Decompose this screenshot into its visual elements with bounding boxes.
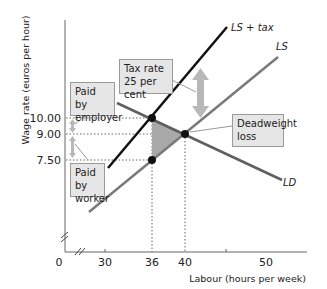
dwl-line2: loss [237, 130, 279, 143]
x-tick-40: 40 [178, 256, 192, 269]
tax-rate-callout: Tax rate 25 per cent [119, 59, 173, 94]
y-tick-7-50: 7.50 [37, 154, 62, 167]
ls-label: LS [276, 41, 289, 52]
x-tick-30: 30 [98, 256, 112, 269]
dwl-line1: Deadweight [237, 117, 279, 130]
worker-share-arrow-icon [69, 136, 76, 158]
ls-tax-label: LS + tax [231, 22, 274, 33]
x-axis-title: Labour (hours per week) [189, 273, 306, 284]
x-tick-0: 0 [56, 256, 63, 269]
point-employer-wage [148, 114, 156, 122]
x-tick-36: 36 [145, 256, 159, 269]
ld-label: LD [283, 177, 297, 188]
tax-arrow-icon [192, 68, 209, 118]
y-tick-10: 10.00 [30, 112, 62, 125]
tax-rate-line1: Tax rate [124, 62, 168, 75]
tax-rate-line2: 25 per cent [124, 75, 168, 101]
employer-line2: employer [75, 111, 110, 124]
deadweight-loss-callout: Deadweight loss [232, 114, 284, 147]
employer-line1: Paid by [75, 85, 110, 111]
point-equilibrium [181, 130, 189, 138]
worker-line1: Paid by [75, 166, 100, 192]
paid-by-employer-callout: Paid by employer [70, 82, 115, 116]
paid-by-worker-callout: Paid by worker [70, 163, 105, 197]
y-tick-9: 9.00 [37, 128, 62, 141]
x-tick-50: 50 [259, 256, 273, 269]
worker-line2: worker [75, 192, 100, 205]
y-axis-title: Wage rate (euros per hour) [20, 15, 31, 144]
point-worker-wage [148, 156, 156, 164]
deadweight-loss-area [152, 118, 185, 160]
